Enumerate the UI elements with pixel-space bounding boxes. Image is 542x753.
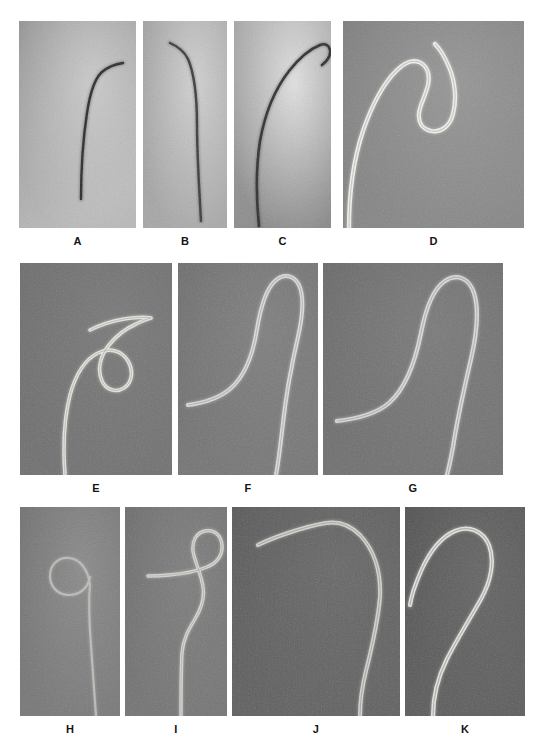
panel-label-a: A bbox=[19, 235, 136, 247]
panel-label-i: I bbox=[125, 723, 227, 735]
radiograph-panel-i bbox=[125, 507, 227, 716]
film-grain bbox=[323, 263, 503, 475]
radiograph-panel-g bbox=[323, 263, 503, 475]
radiograph-panel-d bbox=[343, 21, 524, 228]
panel-label-k: K bbox=[405, 723, 525, 735]
radiograph-panel-j bbox=[232, 507, 400, 716]
figure-container: ABCDEFGHIJK bbox=[0, 0, 542, 753]
panel-label-e: E bbox=[20, 482, 172, 494]
film-grain bbox=[405, 507, 525, 716]
film-grain bbox=[125, 507, 227, 716]
film-grain bbox=[19, 21, 136, 228]
film-grain bbox=[20, 507, 120, 716]
radiograph-panel-h bbox=[20, 507, 120, 716]
film-grain bbox=[178, 263, 318, 475]
radiograph-panel-b bbox=[143, 21, 227, 228]
radiograph-panel-k bbox=[405, 507, 525, 716]
panel-label-h: H bbox=[20, 723, 120, 735]
film-grain bbox=[20, 263, 172, 475]
film-grain bbox=[232, 507, 400, 716]
panel-label-b: B bbox=[143, 235, 227, 247]
radiograph-panel-a bbox=[19, 21, 136, 228]
panel-label-j: J bbox=[232, 723, 400, 735]
panel-label-g: G bbox=[323, 482, 503, 494]
panel-label-c: C bbox=[234, 235, 331, 247]
radiograph-panel-f bbox=[178, 263, 318, 475]
panel-label-d: D bbox=[343, 235, 524, 247]
film-grain bbox=[143, 21, 227, 228]
film-grain bbox=[343, 21, 524, 228]
radiograph-panel-e bbox=[20, 263, 172, 475]
panel-label-f: F bbox=[178, 482, 318, 494]
radiograph-panel-c bbox=[234, 21, 331, 228]
film-grain bbox=[234, 21, 331, 228]
